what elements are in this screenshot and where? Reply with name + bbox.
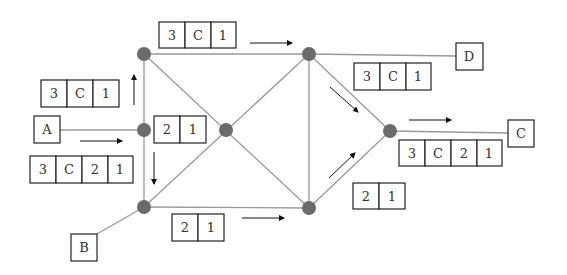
- arrow-diagonal-down-icon: [330, 87, 358, 112]
- cell-label: 1: [116, 162, 124, 177]
- router-node[interactable]: [137, 123, 151, 137]
- router-node[interactable]: [137, 200, 151, 214]
- cell-label: 1: [388, 189, 396, 204]
- router-node[interactable]: [383, 124, 397, 138]
- cell-label: 2: [163, 122, 171, 137]
- endpoint-label: C: [516, 126, 526, 141]
- cell-label: 3: [168, 28, 176, 43]
- cell-label: 2: [91, 162, 99, 177]
- endpoint-C[interactable]: C: [508, 120, 534, 147]
- cell-label: 1: [219, 28, 227, 43]
- arrow-diagonal-up-icon: [329, 153, 355, 178]
- edge-B: [97, 207, 144, 234]
- cell-label: 3: [50, 86, 58, 101]
- router-node[interactable]: [302, 47, 316, 61]
- cell-label: 1: [102, 86, 110, 101]
- cell-label: 3: [363, 69, 371, 84]
- endpoint-D[interactable]: D: [456, 43, 483, 70]
- cell-label: 2: [181, 220, 189, 235]
- cell-label: C: [75, 86, 85, 101]
- cell-label: C: [388, 69, 398, 84]
- cell-label: C: [193, 28, 203, 43]
- cell-label: 1: [414, 69, 422, 84]
- edge-C: [390, 131, 508, 133]
- packet-bottom: [172, 214, 224, 241]
- cell-label: 3: [408, 146, 416, 161]
- cell-label: 3: [39, 162, 47, 177]
- edge-D: [309, 54, 456, 56]
- cell-label: 1: [485, 146, 493, 161]
- endpoint-A[interactable]: A: [34, 116, 60, 143]
- packet-center: [154, 116, 206, 143]
- edge: [144, 207, 309, 208]
- endpoint-label: D: [464, 49, 474, 64]
- cell-label: 2: [460, 146, 468, 161]
- network-diagram: A B C D: [0, 0, 567, 275]
- router-node[interactable]: [302, 201, 316, 215]
- endpoint-label: B: [79, 240, 89, 255]
- cell-label: 2: [362, 189, 370, 204]
- router-node[interactable]: [219, 123, 233, 137]
- router-node[interactable]: [137, 47, 151, 61]
- cell-label: C: [64, 162, 74, 177]
- packet-right-bottom: [353, 183, 405, 209]
- endpoint-label: A: [41, 122, 52, 137]
- cell-label: 1: [207, 220, 215, 235]
- cell-label: 1: [189, 122, 197, 137]
- cell-label: C: [433, 146, 443, 161]
- endpoint-B[interactable]: B: [71, 234, 97, 261]
